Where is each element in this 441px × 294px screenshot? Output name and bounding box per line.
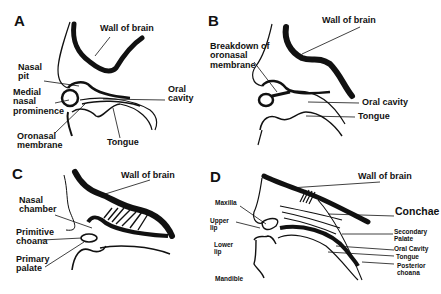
panel-d-posterior-choana-label: Posterior choana [397,263,426,277]
panel-d-mandible-label: Mandible [215,276,243,283]
panel-a-letter: A [14,12,25,29]
panel-a-drawing [44,22,165,138]
panel-b-letter: B [208,12,219,29]
panel-a-wall-of-brain-label: Wall of brain [100,24,154,33]
panel-d-lower-lip-label: Lower lip [214,242,233,256]
panel-c-primary-palate-label: Primary palate [16,255,50,274]
panel-c-nasal-chamber-label: Nasal chamber [19,196,57,215]
embryonic-nasal-development-figure: A Wall of brain Nasal pit Medial nasal p… [0,0,441,294]
panel-b-wall-of-brain-label: Wall of brain [322,16,376,25]
panel-d-drawing [236,176,394,280]
panel-d-wall-of-brain-label: Wall of brain [358,172,412,181]
panel-d-tongue-label: Tongue [396,254,419,261]
panel-a-oronasal-membrane-label: Oronasal membrane [17,132,63,151]
panel-c-wall-of-brain-label: Wall of brain [121,171,175,180]
panel-c-primitive-choana-label: Primitive choana [16,228,54,247]
panel-d-conchae-label: Conchae [395,206,439,217]
panel-c-letter: C [12,165,23,182]
panel-d-maxilla-label: Maxilla [215,200,237,207]
panel-c-drawing [42,172,172,270]
panel-b-oral-cavity-label: Oral cavity [362,98,408,107]
panel-a-nasal-pit-label: Nasal pit [18,63,42,82]
panel-d-upper-lip-label: Upper lip [210,218,229,232]
panel-d-oral-cavity-label: Oral Cavity [394,246,428,253]
panel-b-breakdown-of-oronasal-membrane-label: Breakdown of oronasal membrane [210,42,270,70]
panel-a-oral-cavity-label: Oral cavity [168,85,194,104]
panel-d-secondary-palate-label: Secondary Palate [394,229,427,243]
panel-b-tongue-label: Tongue [358,112,390,121]
panel-a-tongue-label: Tongue [107,138,139,147]
panel-a-medial-nasal-prominence-label: Medial nasal prominence [13,88,64,116]
panel-d-letter: D [210,168,221,185]
